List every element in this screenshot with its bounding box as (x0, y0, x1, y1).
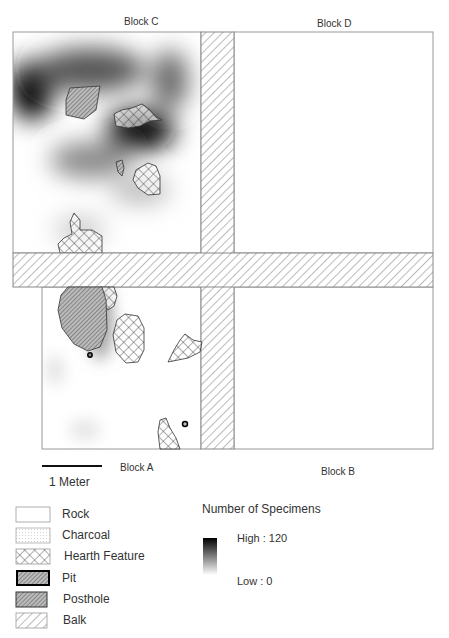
posthole-feature (58, 287, 107, 351)
block-d-label: Block D (317, 18, 351, 29)
hearth-feature (158, 418, 180, 449)
density-legend-title: Number of Specimens (202, 502, 321, 516)
density-gradient-swatch (203, 538, 217, 575)
legend-rock-label: Rock (62, 507, 89, 521)
posthole-feature (116, 160, 124, 176)
legend-pit-swatch (17, 571, 49, 585)
balk-horizontal (13, 253, 433, 287)
hearth-feature (113, 314, 144, 363)
block-c-density (10, 48, 188, 244)
posthole-feature (66, 86, 100, 119)
legend-posthole-label: Posthole (63, 592, 110, 606)
legend-rock-swatch (16, 507, 50, 522)
balk-vertical (201, 32, 234, 449)
legend-posthole-swatch (16, 592, 47, 607)
hearth-feature (168, 334, 202, 362)
block-c-label: Block C (124, 16, 158, 27)
legend-balk-swatch (16, 613, 47, 628)
pit-feature (183, 422, 188, 427)
pit-feature (88, 353, 92, 357)
block-b (234, 287, 433, 449)
excavation-map (0, 0, 449, 638)
density-low-label: Low : 0 (237, 575, 272, 587)
block-d (234, 32, 433, 253)
scale-bar-label: 1 Meter (49, 475, 90, 489)
legend-hearth-label: Hearth Feature (64, 549, 145, 563)
density-high-label: High : 120 (237, 532, 287, 544)
legend-balk-label: Balk (63, 613, 86, 627)
block-b-label: Block B (321, 466, 355, 477)
legend-charcoal-swatch (16, 528, 50, 543)
legend-charcoal-label: Charcoal (62, 528, 110, 542)
legend-pit-label: Pit (62, 571, 76, 585)
block-a-label: Block A (120, 462, 153, 473)
legend-hearth-swatch (16, 549, 50, 564)
